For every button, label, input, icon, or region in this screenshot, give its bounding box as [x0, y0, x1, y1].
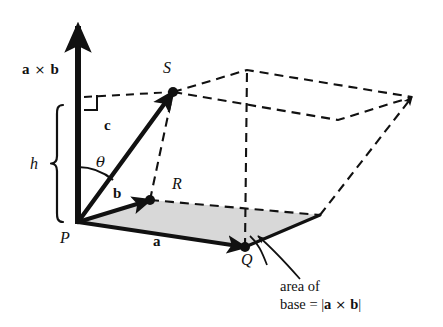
label-vector-c: c	[104, 118, 111, 133]
label-point-s: S	[163, 60, 171, 76]
label-point-r: R	[172, 176, 182, 192]
caption-line-2: base = |a×b|	[280, 296, 361, 314]
label-point-p: P	[60, 230, 70, 246]
caption-prefix: base = |	[280, 296, 324, 312]
top-face-dashed	[173, 70, 412, 120]
caption-suffix: |	[358, 296, 361, 312]
label-vector-a: a	[153, 234, 161, 249]
label-a-cross-b: a×b	[22, 62, 59, 77]
base-area-caption: area of base = |a×b|	[280, 278, 361, 313]
point-s-dot	[168, 87, 178, 97]
label-height-h: h	[30, 156, 38, 172]
height-brace	[51, 105, 63, 222]
figure-canvas	[0, 0, 443, 327]
label-vector-b: b	[113, 186, 121, 201]
edge-basefar-to-topfar-dashed	[320, 97, 412, 215]
label-point-q: Q	[241, 252, 253, 268]
label-a-cross-b-b: b	[50, 61, 58, 77]
caption-line-1: area of	[280, 278, 361, 296]
point-r-dot	[145, 195, 155, 205]
label-theta: θ	[96, 155, 105, 170]
label-a-cross-b-a: a	[22, 61, 30, 77]
vector-triple-product-figure: a×b h θ b a c P Q R S area of base = |a×…	[0, 0, 443, 327]
caption-cross-icon: ×	[335, 297, 346, 312]
cross-product-icon: ×	[35, 62, 46, 77]
caption-vector-a: a	[324, 296, 331, 312]
